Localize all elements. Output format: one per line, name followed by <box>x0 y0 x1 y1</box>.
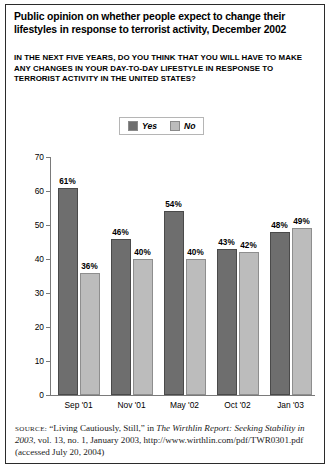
chart-subtitle: IN THE NEXT FIVE YEARS, DO YOU THINK THA… <box>14 53 310 85</box>
source-note: SOURCE: “Living Cautiously, Still,” in T… <box>15 423 315 458</box>
y-axis-tick-label: 30 <box>35 288 44 298</box>
x-axis-tick-label: Sep '01 <box>64 400 92 410</box>
bar-group: 46%40% <box>111 157 153 395</box>
bar-value-label: 43% <box>218 238 234 247</box>
page-title: Public opinion on whether people expect … <box>14 10 314 36</box>
plot-area: 01020304050607061%36%Sep '0146%40%Nov '0… <box>50 157 315 395</box>
bar-value-label: 54% <box>165 200 181 209</box>
bar-value-label: 46% <box>112 228 128 237</box>
y-axis-tick-label: 0 <box>39 390 44 400</box>
bar-yes[interactable] <box>217 249 237 395</box>
y-axis-tick <box>46 361 50 362</box>
chart-legend: Yes No <box>119 117 204 135</box>
bar-no[interactable] <box>133 259 153 395</box>
bar-value-label: 36% <box>81 262 97 271</box>
x-axis-tick-label: Oct '02 <box>224 400 250 410</box>
source-text-a: “Living Cautiously, Still,” in <box>47 423 156 433</box>
legend-swatch-yes <box>128 121 138 131</box>
y-axis-line <box>50 157 51 395</box>
y-axis-tick <box>46 327 50 328</box>
bar-group: 48%49% <box>270 157 312 395</box>
x-axis-line <box>50 395 315 396</box>
bar-group: 61%36% <box>58 157 100 395</box>
bar-value-label: 61% <box>59 177 75 186</box>
y-axis-tick <box>46 191 50 192</box>
bar-no[interactable] <box>80 273 100 395</box>
bar-value-label: 42% <box>240 241 256 250</box>
bar-no[interactable] <box>186 259 206 395</box>
bar-value-label: 48% <box>271 221 287 230</box>
bar-no[interactable] <box>239 252 259 395</box>
chart-figure: Public opinion on whether people expect … <box>5 4 325 464</box>
bar-group: 43%42% <box>217 157 259 395</box>
y-axis-tick-label: 60 <box>35 186 44 196</box>
bar-yes[interactable] <box>58 188 78 395</box>
bar-group: 54%40% <box>164 157 206 395</box>
legend-swatch-no <box>170 121 180 131</box>
bar-no[interactable] <box>292 228 312 395</box>
y-axis-tick-label: 20 <box>35 322 44 332</box>
y-axis-tick <box>46 293 50 294</box>
y-axis-tick-label: 10 <box>35 356 44 366</box>
bar-yes[interactable] <box>164 211 184 395</box>
legend-label-no: No <box>184 121 195 131</box>
bar-yes[interactable] <box>111 239 131 395</box>
y-axis-tick <box>46 259 50 260</box>
x-axis-tick-label: Jan '03 <box>277 400 304 410</box>
y-axis-tick <box>46 225 50 226</box>
y-axis-tick-label: 50 <box>35 220 44 230</box>
y-axis-tick <box>46 395 50 396</box>
source-prefix: SOURCE: <box>15 425 47 433</box>
legend-item-no: No <box>170 121 195 131</box>
legend-item-yes: Yes <box>128 121 157 131</box>
legend-label-yes: Yes <box>142 121 157 131</box>
bar-value-label: 40% <box>187 248 203 257</box>
x-axis-tick-label: May '02 <box>170 400 199 410</box>
bar-yes[interactable] <box>270 232 290 395</box>
bar-value-label: 40% <box>134 248 150 257</box>
x-axis-tick-label: Nov '01 <box>117 400 145 410</box>
source-text-b: , vol. 13, no. 1, January 2003, http://w… <box>15 435 303 456</box>
y-axis-tick-label: 70 <box>35 152 44 162</box>
bar-value-label: 49% <box>293 217 309 226</box>
y-axis-tick-label: 40 <box>35 254 44 264</box>
y-axis-tick <box>46 157 50 158</box>
